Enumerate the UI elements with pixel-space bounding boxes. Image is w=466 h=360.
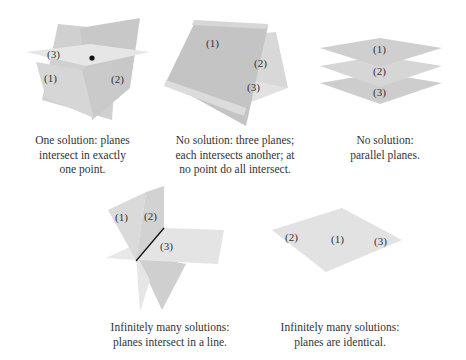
caption-infinite-line: Infinitely many solutions: planes inters… [95, 320, 245, 349]
plane-label-2: (2) [111, 74, 124, 85]
plane-label-2: (2) [285, 232, 298, 243]
intersection-point [89, 55, 94, 60]
plane-label-1: (1) [373, 44, 386, 55]
plane-label-3: (3) [374, 236, 387, 247]
diagram-planes-pairwise [150, 0, 320, 130]
plane-label-1: (1) [331, 234, 344, 245]
plane-label-2: (2) [254, 58, 267, 69]
caption-no-solution-parallel: No solution: parallel planes. [330, 133, 440, 162]
plane-label-2: (2) [144, 211, 157, 222]
caption-infinite-identical: Infinitely many solutions: planes are id… [265, 320, 415, 349]
panel-one-solution: (1) (2) (3) One solution: planes interse… [0, 0, 160, 180]
panel-infinite-line: (1) (2) (3) Infinitely many solutions: p… [90, 180, 250, 360]
panel-no-solution-parallel: (1) (2) (3) No solution: parallel planes… [310, 0, 466, 180]
plane-label-3: (3) [373, 87, 386, 98]
panel-infinite-identical: (2) (1) (3) Infinitely many solutions: p… [250, 180, 430, 360]
plane-label-3: (3) [247, 82, 260, 93]
plane-label-1: (1) [44, 73, 57, 84]
plane-label-2: (2) [373, 66, 386, 77]
plane-label-1: (1) [115, 212, 128, 223]
diagram-parallel-planes [310, 0, 466, 130]
caption-no-solution-pairwise: No solution: three planes; each intersec… [155, 133, 315, 177]
panel-no-solution-pairwise: (1) (2) (3) No solution: three planes; e… [150, 0, 320, 180]
plane-label-3: (3) [47, 49, 60, 60]
diagram-planes-intersect-point [0, 0, 160, 130]
caption-one-solution: One solution: planes intersect in exactl… [20, 133, 145, 177]
plane-label-3: (3) [160, 241, 173, 252]
plane-label-1: (1) [206, 38, 219, 49]
diagram-identical-planes [250, 180, 430, 310]
